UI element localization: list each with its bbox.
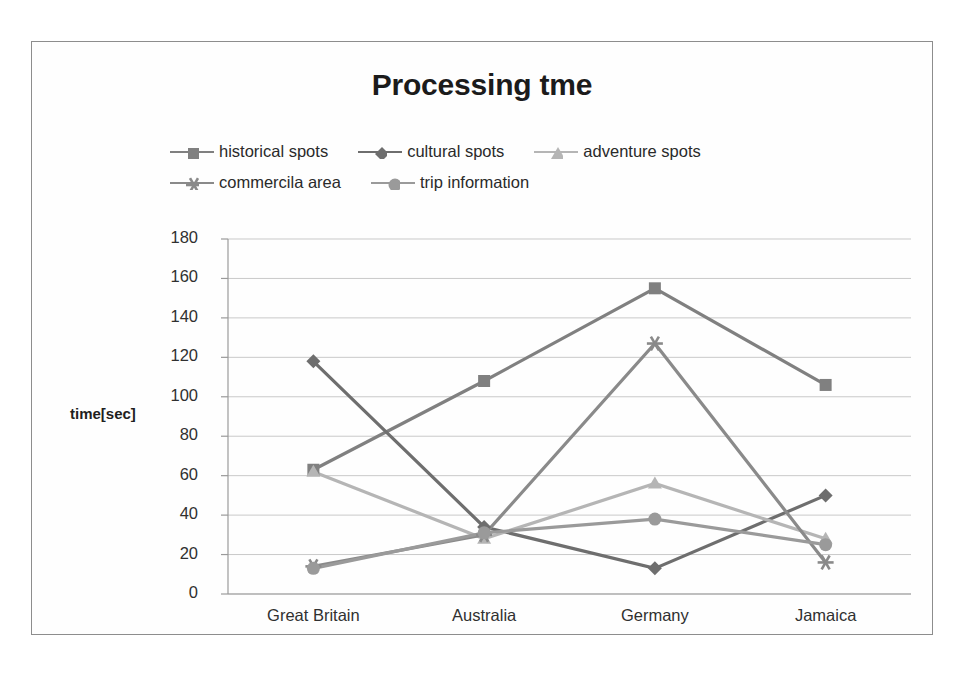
plot-svg [32,42,934,636]
square-marker [649,282,661,294]
x-tick-label: Great Britain [267,606,360,625]
diamond-marker [819,488,833,502]
chart-frame: Processing tme historical spotscultural … [31,41,933,635]
series-line-4 [313,519,825,568]
x-tick-label: Australia [452,606,516,625]
plot-area: time[sec] 180160140120100806040200 Great… [32,42,934,636]
circle-marker [307,562,320,575]
diamond-marker [648,561,662,575]
circle-marker [648,513,661,526]
circle-marker [819,538,832,551]
x-tick-label: Jamaica [795,606,856,625]
square-marker [478,375,490,387]
x-tick-label: Germany [621,606,689,625]
square-marker [820,379,832,391]
circle-marker [478,526,491,539]
series-line-0 [313,288,825,469]
triangle-marker [648,477,662,489]
